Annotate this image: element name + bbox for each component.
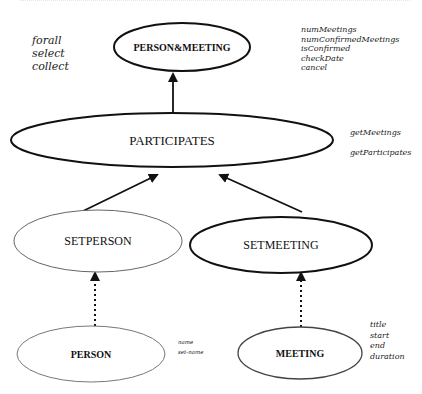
edges-layer [79,74,302,327]
annotation-line: isConfirmed [301,44,350,53]
annotation-person-meeting-ops: numMeetingsnumConfirmedMeetingsisConfirm… [301,25,399,72]
node-label: MEETING [276,348,325,359]
node-label: SETPERSON [64,234,132,248]
annotation-line: checkDate [301,54,344,63]
annotation-line: select [32,47,65,60]
nodes-layer: PERSON&MEETINGPARTICIPATESSETPERSONSETME… [11,23,372,382]
node-label: PARTICIPATES [129,133,215,148]
node-setperson: SETPERSON [14,210,182,272]
node-label: PERSON [71,349,112,360]
annotation-person-ops: nameset-name [178,339,204,355]
annotation-line: duration [370,352,405,361]
node-label: SETMEETING [243,238,319,252]
node-meeting: MEETING [238,327,362,379]
annotation-line: start [370,331,390,340]
annotation-line: title [370,320,387,329]
annotation-line: getParticipates [350,148,411,157]
node-person: PERSON [17,326,165,382]
node-participates: PARTICIPATES [11,113,333,167]
annotation-line: name [178,339,194,345]
node-setmeeting: SETMEETING [190,217,372,273]
edge-setmeeting-to-participates [220,175,302,212]
annotation-meeting-ops: titlestartendduration [370,320,405,361]
annotations-layer: forallselectcollectnumMeetingsnumConfirm… [31,25,411,361]
annotation-line: collect [32,60,69,73]
annotation-line: numConfirmedMeetings [301,35,399,44]
annotation-line: cancel [301,63,328,72]
annotation-line: end [370,341,385,350]
node-person_meeting: PERSON&MEETING [114,23,250,71]
annotation-line: getMeetings [350,128,401,137]
annotation-line: forall [31,34,62,47]
diagram-canvas: PERSON&MEETINGPARTICIPATESSETPERSONSETME… [0,0,422,394]
edge-setperson-to-participates [79,175,157,213]
annotation-line: numMeetings [301,25,357,34]
annotation-line: set-name [178,349,204,355]
annotation-collection-ops: forallselectcollect [31,34,69,73]
node-label: PERSON&MEETING [133,42,230,53]
annotation-participates-ops: getMeetingsgetParticipates [350,128,411,157]
